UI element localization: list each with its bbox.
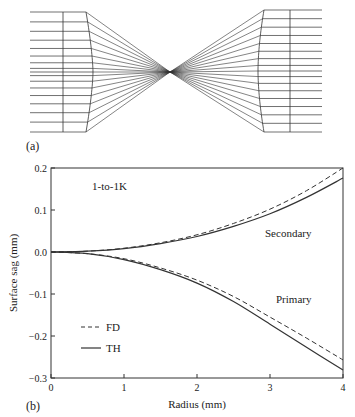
x-axis-ticks: 01234 xyxy=(49,374,346,393)
x-tick-label: 1 xyxy=(122,382,127,393)
y-axis-title: Surface sag (mm) xyxy=(7,234,20,313)
plot-frame xyxy=(51,168,343,378)
y-tick-label: −0.3 xyxy=(29,373,47,384)
primary-th-curve xyxy=(51,252,343,370)
y-tick-label: 0.1 xyxy=(35,205,48,216)
panel-a-label: (a) xyxy=(26,139,39,153)
figure: (a) 0.20.10.0−0.1−0.2−0.3 01234 1-to-1K … xyxy=(0,0,355,417)
y-tick-label: −0.1 xyxy=(29,289,47,300)
y-tick-label: −0.2 xyxy=(29,331,47,342)
legend-fd-label: FD xyxy=(106,321,120,333)
x-tick-label: 0 xyxy=(49,382,54,393)
x-tick-label: 3 xyxy=(268,382,273,393)
primary-label: Primary xyxy=(276,293,312,305)
sag-chart: 0.20.10.0−0.1−0.2−0.3 01234 1-to-1K Seco… xyxy=(7,163,346,411)
legend-th-label: TH xyxy=(106,342,121,354)
chart-annotation: 1-to-1K xyxy=(92,180,127,192)
ray-trace-diagram xyxy=(30,10,322,132)
y-tick-label: 0.0 xyxy=(35,247,48,258)
legend: FD TH xyxy=(81,321,121,354)
x-axis-title: Radius (mm) xyxy=(168,398,226,411)
x-tick-label: 4 xyxy=(341,382,346,393)
curves xyxy=(51,168,343,370)
panel-b-label: (b) xyxy=(26,399,40,413)
y-tick-label: 0.2 xyxy=(35,163,48,174)
primary-fd-curve xyxy=(51,252,343,360)
secondary-label: Secondary xyxy=(265,227,312,239)
x-tick-label: 2 xyxy=(195,382,200,393)
